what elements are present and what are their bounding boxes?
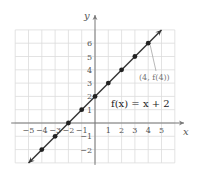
data-point [53,134,58,139]
x-tick-label: 4 [146,126,151,135]
y-tick-label: 4 [87,66,92,75]
x-tick-label: 5 [159,126,164,135]
data-point [146,41,151,46]
axes [11,15,184,165]
data-point [119,67,124,72]
data-point [106,81,111,86]
x-tick-label: −4 [36,126,48,135]
x-tick-label: −5 [23,126,35,135]
x-axis-label: x [183,126,189,137]
data-point [66,121,71,126]
x-tick-label: 2 [119,126,124,135]
annotation-leader-line [150,45,156,71]
x-tick-label: −3 [49,126,61,135]
y-tick-label: 6 [87,39,92,48]
data-point [79,107,84,112]
y-tick-label: 1 [87,106,92,115]
equation-label: f(x) = x + 2 [111,98,170,109]
y-tick-label: −2 [80,146,92,155]
chart-labels: y x f(x) = x + 2 (4, f(4)) [83,10,189,137]
y-tick-label: 3 [87,79,92,88]
y-tick-label: 5 [87,53,92,62]
data-point [93,94,98,99]
x-tick-label: 1 [106,126,111,135]
y-tick-label: −1 [80,132,92,141]
function-graph: −5−4−3−2−112345−2−1123456 y x f(x) = x +… [0,0,199,187]
y-axis-label: y [83,10,90,21]
point-annotation: (4, f(4)) [139,73,170,82]
data-point [39,147,44,152]
x-tick-label: 3 [132,126,137,135]
data-point [133,54,138,59]
